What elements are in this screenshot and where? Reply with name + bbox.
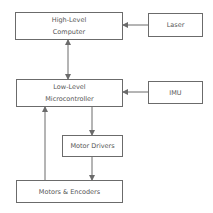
high-level-computer-box: High-Level Computer [15,12,123,40]
laser-box: Laser [148,13,203,37]
high-level-line2: Computer [53,26,85,38]
low-level-microcontroller-box: Low-Level Microcontroller [16,79,123,107]
motors-encoders-label: Motors & Encoders [39,186,100,198]
motors-encoders-box: Motors & Encoders [16,180,123,203]
motor-drivers-box: Motor Drivers [62,135,123,157]
low-level-line2: Microcontroller [45,93,94,105]
laser-label: Laser [167,19,185,31]
high-level-line1: High-Level [52,14,86,26]
low-level-line1: Low-Level [53,81,85,93]
imu-label: IMU [169,87,181,99]
motor-drivers-label: Motor Drivers [70,140,114,152]
imu-box: IMU [148,81,203,104]
